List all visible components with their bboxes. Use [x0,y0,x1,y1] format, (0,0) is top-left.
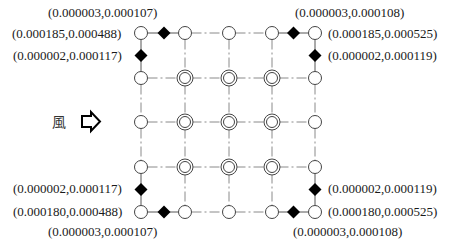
diamond-sensor-marker [158,27,171,40]
label-bottom-right-horizontal: (0.000003,0.000108) [293,224,402,239]
circle-node [179,206,192,219]
diamond-sensor-marker [135,183,148,196]
circle-node [309,116,322,129]
circle-node [223,206,236,219]
circle-node [223,27,236,40]
label-bottom-left-vertical: (0.000002,0.000117) [13,181,122,196]
label-top-right-vertical: (0.000002,0.000119) [328,48,437,63]
double-circle-node-inner [267,162,278,173]
circle-node [309,72,322,85]
label-top-left-horizontal: (0.000003,0.000107) [48,5,157,20]
diamond-sensor-marker [158,206,171,219]
diamond-sensor-marker [309,49,322,62]
circle-node [309,206,322,219]
label-bottom-left-horizontal: (0.000003,0.000107) [48,224,157,239]
circle-node [135,116,148,129]
double-circle-node-inner [224,117,235,128]
diamond-sensor-marker [287,206,300,219]
double-circle-node-inner [180,162,191,173]
double-circle-node-inner [224,162,235,173]
label-top-right-corner: (0.000185,0.000525) [328,26,437,41]
double-circle-node-inner [267,117,278,128]
grid-diagram: 風 (0.000003,0.000107) (0.000185,0.000488… [0,0,453,249]
label-bottom-right-corner: (0.000180,0.000525) [328,204,437,219]
wind-label: 風 [52,114,66,130]
hollow-arrow-right-icon [82,112,100,131]
label-bottom-left-corner: (0.000180,0.000488) [13,204,122,219]
double-circle-node-inner [180,73,191,84]
label-top-left-corner: (0.000185,0.000488) [12,26,121,41]
double-circle-node-inner [224,73,235,84]
label-top-right-horizontal: (0.000003,0.000108) [295,5,404,20]
circle-node [266,27,279,40]
double-circle-node-inner [180,117,191,128]
circle-node [135,72,148,85]
circle-node [135,27,148,40]
diamond-sensor-marker [287,27,300,40]
circle-node [179,27,192,40]
circle-node [309,161,322,174]
label-bottom-right-vertical: (0.000002,0.000119) [328,181,437,196]
circle-node [309,27,322,40]
circle-node [266,206,279,219]
double-circle-node-inner [267,73,278,84]
circle-node [135,206,148,219]
diamond-sensor-marker [135,49,148,62]
label-top-left-vertical: (0.000002,0.000117) [13,48,122,63]
diamond-sensor-marker [309,183,322,196]
circle-node [135,161,148,174]
